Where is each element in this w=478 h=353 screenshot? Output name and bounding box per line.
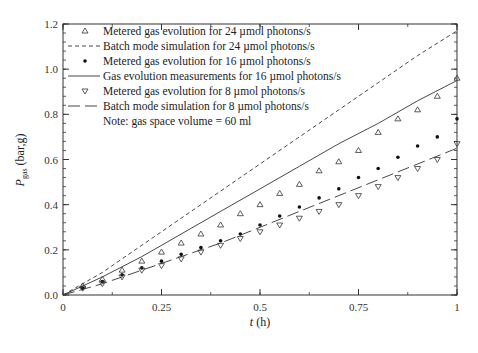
data-point xyxy=(199,246,203,250)
data-point xyxy=(434,158,440,163)
y-tick-label: 0.4 xyxy=(44,199,58,211)
series-3 xyxy=(63,81,457,296)
x-axis-label: t (h) xyxy=(250,315,270,329)
y-tick-label: 0.8 xyxy=(44,108,58,120)
data-point xyxy=(139,258,145,263)
series-2 xyxy=(81,117,459,290)
x-tick-label: 1 xyxy=(454,301,460,313)
data-point xyxy=(357,176,361,180)
data-point xyxy=(198,231,204,236)
data-point xyxy=(356,147,362,152)
data-point xyxy=(218,222,224,227)
y-tick-label: 1.2 xyxy=(44,18,58,30)
y-axis-label: Pgas (bar,g) xyxy=(13,134,29,188)
legend-item: Metered gas evolution for 8 µmol photons… xyxy=(82,85,306,98)
data-point xyxy=(296,181,302,186)
y-axis-unit: (bar,g) xyxy=(13,134,27,169)
legend-item: Metered gas evolution for 24 µmol photon… xyxy=(82,25,311,38)
series-4 xyxy=(80,142,460,292)
data-point xyxy=(395,176,401,181)
legend-item: Batch mode simulation for 24 µmol photon… xyxy=(68,40,315,53)
legend-item: Batch mode simulation for 8 µmol photons… xyxy=(68,100,309,113)
legend-item: Metered gas evolution for 16 µmol photon… xyxy=(83,55,311,68)
legend-item: Gas evolution measurements for 16 µmol p… xyxy=(68,70,341,83)
legend-label: Metered gas evolution for 8 µmol photons… xyxy=(103,85,306,98)
data-point xyxy=(376,167,380,171)
legend-label: Batch mode simulation for 8 µmol photons… xyxy=(103,100,309,113)
gas-pressure-chart: 0.00.20.40.60.81.01.2 00.250.50.751 Mete… xyxy=(0,0,478,353)
data-point xyxy=(415,167,421,172)
legend-label: Metered gas evolution for 24 µmol photon… xyxy=(103,25,311,38)
data-point xyxy=(336,203,342,208)
data-point xyxy=(277,223,283,228)
y-tick-label: 0.2 xyxy=(44,244,58,256)
data-point xyxy=(375,185,381,190)
x-tick-label: 0 xyxy=(60,301,66,313)
data-point xyxy=(436,135,440,139)
data-point xyxy=(237,237,243,242)
series-line xyxy=(63,81,457,296)
legend-label: Metered gas evolution for 16 µmol photon… xyxy=(103,55,311,68)
data-point xyxy=(337,187,341,191)
data-point xyxy=(277,190,283,195)
x-tick-label: 0.25 xyxy=(152,301,172,313)
x-tick-label: 0.5 xyxy=(253,301,267,313)
x-tick-label: 0.75 xyxy=(349,301,369,313)
data-point xyxy=(278,214,282,218)
data-point xyxy=(455,117,459,121)
data-point xyxy=(395,116,401,121)
legend-label: Batch mode simulation for 24 µmol photon… xyxy=(103,40,315,53)
legend-marker-icon xyxy=(82,89,88,94)
data-point xyxy=(434,93,440,98)
legend-note: Note: gas space volume = 60 ml xyxy=(103,115,251,128)
data-point xyxy=(237,211,243,216)
data-point xyxy=(317,196,321,200)
data-point xyxy=(178,240,184,245)
legend-marker-icon xyxy=(83,59,87,63)
data-point xyxy=(416,144,420,148)
y-tick-label: 1.0 xyxy=(44,63,58,75)
data-point xyxy=(356,194,362,199)
data-point xyxy=(316,209,322,214)
data-point xyxy=(336,159,342,164)
data-point xyxy=(375,129,381,134)
data-point xyxy=(179,253,183,257)
y-tick-label: 0.6 xyxy=(44,154,58,166)
data-point xyxy=(296,216,302,221)
legend-marker-icon xyxy=(82,28,88,33)
legend: Metered gas evolution for 24 µmol photon… xyxy=(68,25,341,128)
data-point xyxy=(316,168,322,173)
data-point xyxy=(159,249,165,254)
data-point xyxy=(257,230,263,235)
data-point xyxy=(396,155,400,159)
x-axis-unit: (h) xyxy=(253,315,270,329)
data-point xyxy=(257,202,263,207)
data-point xyxy=(415,107,421,112)
y-axis-sub: gas xyxy=(20,168,29,179)
data-point xyxy=(159,264,165,269)
legend-label: Gas evolution measurements for 16 µmol p… xyxy=(103,70,341,83)
data-point xyxy=(298,205,302,209)
data-point xyxy=(258,223,262,227)
data-point xyxy=(160,259,164,263)
y-tick-label: 0.0 xyxy=(44,289,58,301)
data-point xyxy=(219,239,223,243)
